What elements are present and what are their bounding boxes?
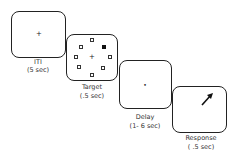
target-square-top-left bbox=[79, 45, 83, 49]
delay-screen: • bbox=[119, 60, 172, 109]
delay-label: Delay bbox=[125, 113, 165, 121]
iti-label: ITI bbox=[18, 58, 58, 66]
target-square-bottom-right bbox=[101, 66, 105, 70]
fixation-dot-icon: • bbox=[141, 81, 149, 88]
response-arrow-icon bbox=[198, 90, 216, 108]
delay-duration: (1- 6 sec) bbox=[125, 122, 165, 130]
target-duration: (.5 sec) bbox=[72, 92, 112, 100]
iti-duration: (5 sec) bbox=[18, 66, 58, 74]
target-square-bottom-left bbox=[77, 65, 81, 69]
target-square-bottom bbox=[90, 73, 94, 77]
fixation-cross-icon: + bbox=[35, 31, 43, 38]
target-square-top-right-filled bbox=[102, 45, 106, 49]
iti-screen: + bbox=[11, 11, 66, 58]
response-duration: ( .5 sec) bbox=[179, 143, 223, 151]
target-square-top bbox=[90, 38, 94, 42]
target-label: Target bbox=[72, 83, 112, 91]
fixation-cross-icon: + bbox=[88, 54, 96, 61]
target-square-left bbox=[74, 55, 78, 59]
response-label: Response bbox=[179, 134, 223, 142]
target-square-right bbox=[108, 55, 112, 59]
